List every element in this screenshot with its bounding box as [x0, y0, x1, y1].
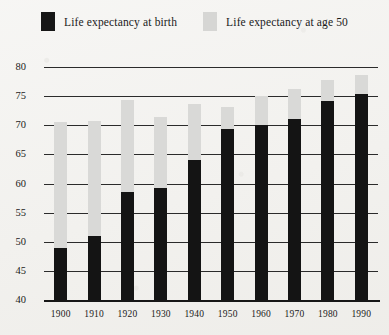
y-axis-tick-label: 80 [0, 61, 26, 72]
light-swatch-icon [203, 12, 217, 31]
dark-swatch-icon [41, 12, 55, 31]
y-axis-tick-label: 70 [0, 119, 26, 130]
y-axis-tick-label: 60 [0, 178, 26, 189]
y-axis-tick-label: 55 [0, 207, 26, 218]
bar-group [321, 67, 334, 300]
legend-entry-birth: Life expectancy at birth [41, 12, 177, 31]
bar-group [54, 67, 67, 300]
bar-group [88, 67, 101, 300]
bar-life-expectancy-birth [288, 119, 301, 300]
bar-group [221, 67, 234, 300]
bar-group [255, 67, 268, 300]
y-axis-tick-label: 40 [0, 294, 26, 305]
bar-life-expectancy-birth [221, 129, 234, 300]
plot-area: 404550556065707580 [44, 67, 378, 300]
bar-group [121, 67, 134, 300]
bar-life-expectancy-birth [321, 101, 334, 300]
bar-life-expectancy-birth [54, 248, 67, 300]
bar-group [154, 67, 167, 300]
bar-life-expectancy-birth [154, 188, 167, 300]
bar-life-expectancy-birth [355, 94, 368, 300]
bar-group [355, 67, 368, 300]
bar-group [188, 67, 201, 300]
x-axis-baseline [44, 300, 380, 302]
y-axis-tick-label: 45 [0, 265, 26, 276]
legend-entry-age50: Life expectancy at age 50 [203, 12, 348, 31]
bar-life-expectancy-birth [88, 236, 101, 300]
y-axis-tick-label: 50 [0, 236, 26, 247]
bar-life-expectancy-birth [255, 125, 268, 300]
chart-legend: Life expectancy at birth Life expectancy… [0, 12, 389, 31]
legend-label-age50: Life expectancy at age 50 [226, 16, 348, 28]
y-axis-tick-label: 65 [0, 148, 26, 159]
bar-group [288, 67, 301, 300]
bar-life-expectancy-birth [188, 160, 201, 300]
y-axis-tick-label: 75 [0, 90, 26, 101]
bar-life-expectancy-birth [121, 192, 134, 300]
x-axis-tick-label: 1990 [341, 309, 381, 319]
legend-label-birth: Life expectancy at birth [64, 16, 177, 28]
